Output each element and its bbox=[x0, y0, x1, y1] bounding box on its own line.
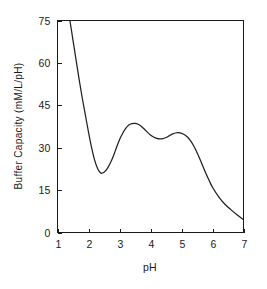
y-tick-label: 60 bbox=[38, 57, 50, 69]
x-tick-label: 6 bbox=[210, 238, 216, 250]
x-tick-label: 4 bbox=[148, 238, 154, 250]
buffer-capacity-line-chart: 01530456075 1234567 Buffer Capacity (mM/… bbox=[0, 0, 267, 289]
y-tick-label: 75 bbox=[38, 15, 50, 27]
y-axis-title: Buffer Capacity (mM/L/pH) bbox=[13, 63, 24, 190]
x-tick-label: 7 bbox=[241, 238, 247, 250]
x-tick-label: 5 bbox=[179, 238, 185, 250]
chart-figure: 01530456075 1234567 Buffer Capacity (mM/… bbox=[0, 0, 267, 289]
x-tick-label: 2 bbox=[86, 238, 92, 250]
y-tick-label: 0 bbox=[44, 227, 50, 239]
y-tick-label: 15 bbox=[38, 184, 50, 196]
y-tick-label: 30 bbox=[38, 142, 50, 154]
y-tick-label: 45 bbox=[38, 99, 50, 111]
x-axis-title: pH bbox=[143, 261, 157, 273]
x-tick-label: 1 bbox=[55, 238, 61, 250]
x-tick-label: 3 bbox=[117, 238, 123, 250]
